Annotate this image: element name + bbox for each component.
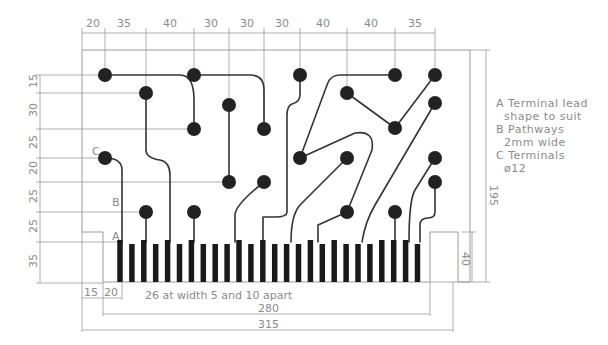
callout-b: B: [112, 196, 120, 209]
edge-finger: [272, 244, 278, 282]
edge-finger: [165, 240, 171, 282]
dim-top-0: 20: [86, 17, 100, 30]
edge-finger: [403, 240, 409, 282]
edge-finger: [379, 240, 385, 282]
note-line-3: 2mm wide: [496, 136, 588, 149]
edge-finger: [236, 240, 242, 282]
edge-finger: [260, 240, 266, 282]
dim-left-1: 30: [27, 103, 40, 117]
dim-fingers-span: 280: [258, 302, 279, 315]
pathways: [105, 75, 435, 242]
dim-top-8: 35: [408, 17, 422, 30]
dim-left-0: 15: [27, 74, 40, 88]
edge-finger: [153, 244, 159, 282]
dim-top-3: 30: [204, 17, 218, 30]
dim-overall-width: 315: [258, 318, 279, 331]
dim-bottom-20: 20: [104, 286, 118, 299]
dim-top-7: 40: [364, 17, 378, 30]
dim-top-6: 40: [316, 17, 330, 30]
edge-finger: [415, 244, 421, 282]
edge-finger: [308, 240, 314, 282]
dim-left-4: 25: [27, 189, 40, 203]
note-line-4: C Terminals: [496, 149, 588, 162]
note-line-0: A Terminal lead: [496, 97, 588, 110]
edge-finger: [248, 244, 254, 282]
edge-finger: [189, 240, 195, 282]
edge-finger: [284, 244, 290, 282]
notes-block: A Terminal lead shape to suit B Pathways…: [496, 97, 588, 175]
pcb-drawing: 20 35 40 30 30 30 40 40 35 15 30 25 20 2…: [0, 0, 608, 345]
dim-left-6: 35: [27, 254, 40, 268]
edge-finger: [141, 240, 147, 282]
edge-fingers: [117, 240, 420, 282]
dim-left-2: 25: [27, 135, 40, 149]
edge-finger: [331, 240, 337, 282]
note-line-2: B Pathways: [496, 123, 588, 136]
edge-finger: [117, 240, 123, 282]
note-line-5: ø12: [496, 162, 588, 175]
edge-finger: [391, 240, 397, 282]
edge-finger: [296, 244, 302, 282]
edge-finger: [367, 244, 373, 282]
finger-spec-label: 26 at width 5 and 10 apart: [145, 289, 293, 302]
right-dimensions: [430, 50, 490, 282]
dim-left-3: 20: [27, 161, 40, 175]
terminals: [98, 68, 442, 219]
edge-finger: [343, 244, 349, 282]
edge-finger: [177, 244, 183, 282]
edge-finger: [201, 244, 207, 282]
edge-finger: [212, 244, 218, 282]
dim-top-1: 35: [117, 17, 131, 30]
edge-finger: [320, 244, 326, 282]
dim-bottom-15: 15: [84, 286, 98, 299]
edge-finger: [355, 244, 361, 282]
note-line-1: shape to suit: [496, 110, 588, 123]
edge-finger: [129, 244, 135, 282]
dim-left-5: 25: [27, 219, 40, 233]
dim-finger-height: 40: [459, 252, 472, 266]
dim-overall-height: 195: [487, 185, 500, 206]
dim-top-5: 30: [275, 17, 289, 30]
dim-top-4: 30: [240, 17, 254, 30]
dim-top-2: 40: [163, 17, 177, 30]
edge-finger: [224, 244, 230, 282]
